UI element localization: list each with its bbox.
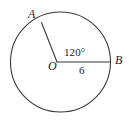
point-label-b: B [115,54,122,66]
central-angle-label: 120° [64,47,85,58]
point-label-a: A [28,8,35,20]
radius-length-label: 6 [79,65,85,76]
geometry-figure: A B O 120° 6 [0,0,129,123]
center-label-o: O [48,60,57,72]
radius-segment-oa [42,23,58,63]
circle-diagram-svg [0,0,129,123]
